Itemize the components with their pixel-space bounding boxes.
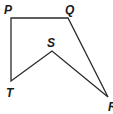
vertex-label-s: S xyxy=(47,36,55,50)
vertex-label-p: P xyxy=(4,3,13,17)
polygon-pqrst xyxy=(11,18,108,97)
vertex-label-q: Q xyxy=(65,3,75,17)
vertex-label-r: R xyxy=(108,100,113,114)
vertex-label-t: T xyxy=(6,86,15,100)
polygon-diagram: P Q R S T xyxy=(0,0,113,114)
